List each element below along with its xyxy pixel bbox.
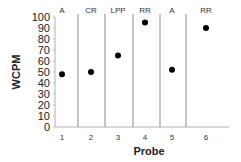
y-axis-title: WCPM <box>10 55 22 90</box>
x-tick-label: 1 <box>60 133 65 142</box>
y-tick-label: 30 <box>38 88 50 100</box>
data-point-marker <box>203 25 209 31</box>
y-tick-label: 40 <box>38 77 50 89</box>
phase-label: A <box>59 6 65 15</box>
y-tick-label: 10 <box>38 110 50 122</box>
y-tick-label: 90 <box>38 22 50 34</box>
phase-label: RR <box>139 6 151 15</box>
data-point-marker <box>88 69 94 75</box>
phase-label: A <box>169 6 175 15</box>
y-tick-label: 80 <box>38 33 50 45</box>
x-axis: 123456 <box>55 127 229 142</box>
x-axis-title: Probe <box>133 145 164 157</box>
x-tick-label: 4 <box>143 133 148 142</box>
y-tick-label: 20 <box>38 99 50 111</box>
y-tick-label: 70 <box>38 44 50 56</box>
data-point-marker <box>59 71 65 77</box>
x-tick-label: 6 <box>204 133 209 142</box>
phase-label: LPP <box>110 6 125 15</box>
phase-labels: ACRLPPRRARR <box>59 6 212 15</box>
x-tick-label: 2 <box>89 133 94 142</box>
chart: 0102030405060708090100 123456 ACRLPPRRAR… <box>0 0 241 162</box>
data-point-marker <box>115 53 121 59</box>
phase-label: RR <box>200 6 212 15</box>
y-axis: 0102030405060708090100 <box>32 11 55 133</box>
y-tick-label: 60 <box>38 55 50 67</box>
x-tick-label: 5 <box>170 133 175 142</box>
y-tick-label: 100 <box>32 11 50 23</box>
x-tick-label: 3 <box>116 133 121 142</box>
y-tick-label: 0 <box>44 121 50 133</box>
data-point-marker <box>142 20 148 26</box>
y-tick-label: 50 <box>38 66 50 78</box>
data-point-marker <box>169 67 175 73</box>
phase-label: CR <box>85 6 97 15</box>
